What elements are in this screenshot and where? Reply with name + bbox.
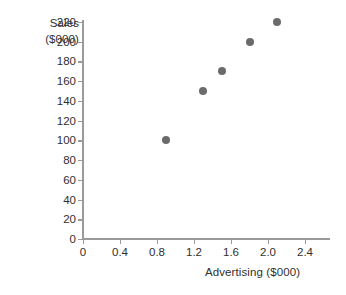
y-tick-label: 140	[57, 95, 76, 107]
y-tick-mark	[78, 61, 83, 62]
y-tick-mark	[78, 219, 83, 220]
data-point	[246, 38, 254, 46]
data-point	[273, 18, 281, 26]
data-point	[162, 136, 170, 144]
y-tick-mark	[78, 81, 83, 82]
y-tick-mark	[78, 42, 83, 43]
y-tick-label: 100	[57, 134, 76, 146]
y-tick-mark	[78, 121, 83, 122]
x-tick-mark	[268, 239, 269, 244]
y-tick-label: 40	[63, 194, 76, 206]
data-point	[218, 67, 226, 75]
x-tick-label: 1.6	[223, 246, 239, 258]
x-tick-mark	[194, 239, 195, 244]
x-tick-mark	[120, 239, 121, 244]
y-tick-mark	[78, 22, 83, 23]
x-tick-label: 2.4	[297, 246, 313, 258]
y-tick-mark	[78, 180, 83, 181]
y-tick-mark	[78, 160, 83, 161]
x-tick-label: 1.2	[186, 246, 202, 258]
y-tick-label: 160	[57, 75, 76, 87]
y-tick-mark	[78, 101, 83, 102]
scatter-chart: Sales ($000) 020406080100120140160180200…	[0, 0, 346, 295]
data-point	[199, 87, 207, 95]
plot-area: 020406080100120140160180200220 00.40.81.…	[83, 22, 330, 239]
x-axis-title: Advertising ($000)	[205, 266, 300, 278]
y-tick-label: 80	[63, 154, 76, 166]
y-tick-label: 180	[57, 55, 76, 67]
x-tick-label: 0	[80, 246, 86, 258]
y-tick-label: 200	[57, 36, 76, 48]
y-tick-label: 60	[63, 174, 76, 186]
x-tick-mark	[157, 239, 158, 244]
x-tick-label: 2.0	[260, 246, 276, 258]
y-tick-label: 120	[57, 115, 76, 127]
y-tick-mark	[78, 140, 83, 141]
x-tick-label: 0.8	[149, 246, 165, 258]
x-tick-mark	[231, 239, 232, 244]
y-tick-label: 0	[70, 233, 76, 245]
y-tick-mark	[78, 200, 83, 201]
x-tick-label: 0.4	[112, 246, 128, 258]
y-tick-label: 20	[63, 213, 76, 225]
y-tick-label: 220	[57, 16, 76, 28]
x-tick-mark	[305, 239, 306, 244]
x-tick-mark	[83, 239, 84, 244]
